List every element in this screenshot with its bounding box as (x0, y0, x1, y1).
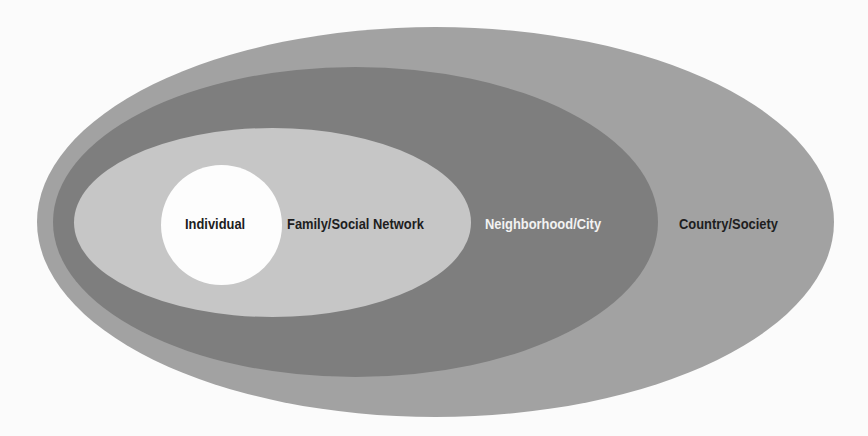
family-social-network-label: Family/Social Network (287, 216, 424, 232)
neighborhood-city-label: Neighborhood/City (485, 216, 601, 232)
individual-label: Individual (185, 216, 245, 232)
country-society-label: Country/Society (679, 216, 778, 232)
